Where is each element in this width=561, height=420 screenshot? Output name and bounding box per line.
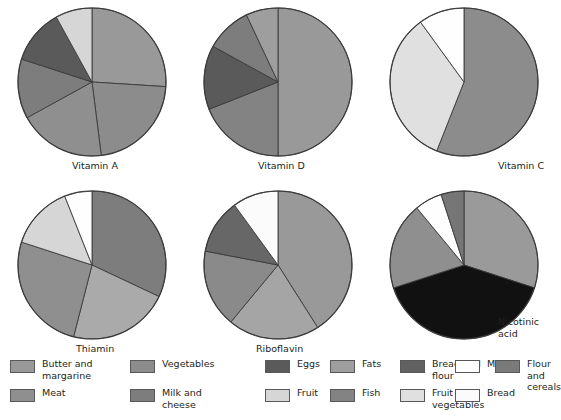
legend-label: Fats: [362, 358, 381, 370]
legend-swatch-icon: [265, 360, 290, 373]
figure-legend: Butter and margarineMeatVegetablesMilk a…: [0, 356, 546, 420]
legend-swatch-icon: [330, 360, 355, 373]
legend-swatch-icon: [495, 360, 520, 373]
pie-chart-caption: Thiamin: [76, 343, 114, 355]
legend-label: Fruit: [297, 387, 318, 399]
pie-chart-vitamin-c: Vegetables: 56%Fruit: 34%Fruit and veget…: [388, 6, 540, 158]
legend-item: Butter and margarine: [10, 358, 93, 381]
legend-swatch-icon: [130, 360, 155, 373]
pie-chart-caption: Vitamin A: [72, 160, 118, 172]
pie-chart-caption: Vitamin D: [258, 160, 305, 172]
legend-item: Flour and cereals: [495, 358, 561, 393]
legend-label: Vegetables: [162, 358, 215, 370]
legend-item: Fruit: [265, 387, 318, 402]
legend-label: Fish: [362, 387, 380, 399]
pie-slice: Butter and margarine: 50%: [278, 8, 352, 156]
pie-chart-caption: Vitamin C: [498, 160, 544, 172]
legend-swatch-icon: [130, 389, 155, 402]
pie-chart-vitamin-a: Butter and margarine: 26%Vegetables: 22%…: [16, 6, 168, 158]
legend-label: Flour and cereals: [527, 358, 561, 393]
legend-swatch-icon: [455, 389, 480, 402]
legend-swatch-icon: [265, 389, 290, 402]
legend-swatch-icon: [330, 389, 355, 402]
legend-label: Meat: [42, 387, 66, 399]
pie-slice: Butter and margarine: 26%: [92, 8, 166, 87]
pie-chart-caption: Nicotinic acid: [498, 316, 539, 339]
legend-item: Meat: [10, 387, 66, 402]
pie-chart-riboflavin: Milk and cheese: 41%Vegetables: 20%Meat:…: [202, 189, 354, 341]
legend-swatch-icon: [400, 360, 425, 373]
legend-label: Milk and cheese: [162, 387, 202, 410]
legend-swatch-icon: [455, 360, 480, 373]
pie-slice: Vegetables: 22%: [92, 82, 166, 155]
pie-chart-thiamin: Bread and flour: 32%Vegetables: 22%Meat:…: [16, 189, 168, 341]
pie-chart-caption: Riboflavin: [256, 343, 303, 355]
pie-chart-vitamin-d: Butter and margarine: 50%Fish: 19%Eggs: …: [202, 6, 354, 158]
legend-swatch-icon: [400, 389, 425, 402]
legend-label: Eggs: [297, 358, 320, 370]
legend-swatch-icon: [10, 389, 35, 402]
legend-item: Vegetables: [130, 358, 215, 373]
legend-swatch-icon: [10, 360, 35, 373]
legend-item: Fats: [330, 358, 381, 373]
legend-item: Fish: [330, 387, 380, 402]
legend-label: Butter and margarine: [42, 358, 93, 381]
legend-item: Eggs: [265, 358, 320, 373]
legend-item: Milk and cheese: [130, 387, 202, 410]
